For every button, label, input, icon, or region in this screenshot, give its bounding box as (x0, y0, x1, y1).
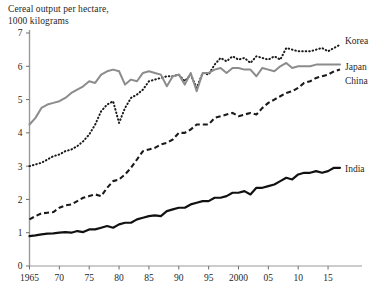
x-axis-tick-label: 75 (84, 273, 94, 283)
x-axis-tick-label: 1965 (20, 273, 39, 283)
y-axis-tick-label: 7 (18, 28, 23, 38)
series-line-china (30, 70, 341, 220)
cereal-output-chart: Cereal output per hectare, 1000 kilogram… (0, 0, 382, 294)
series-label-korea: Korea (345, 36, 369, 46)
x-axis-tick-label: 05 (264, 273, 274, 283)
x-axis-tick-label: 70 (55, 273, 65, 283)
series-line-japan (30, 63, 341, 125)
series-label-japan: Japan (345, 62, 367, 72)
y-axis-tick-label: 4 (18, 128, 23, 138)
x-axis-tick-label: 10 (293, 273, 303, 283)
x-axis-tick-label: 85 (144, 273, 154, 283)
y-axis-tick-label: 1 (18, 228, 23, 238)
chart-plot-area: 0123456719657075808590952000051015KoreaJ… (0, 0, 382, 294)
y-axis-tick-label: 5 (18, 95, 23, 105)
series-label-india: India (345, 164, 365, 174)
x-axis-tick-label: 90 (174, 273, 184, 283)
y-axis-tick-label: 3 (18, 162, 23, 172)
series-line-korea (30, 45, 341, 166)
y-axis-tick-label: 0 (18, 261, 23, 271)
x-axis-tick-label: 95 (204, 273, 214, 283)
x-axis-tick-label: 80 (114, 273, 124, 283)
x-axis-tick-label: 15 (323, 273, 333, 283)
y-axis-tick-label: 6 (18, 62, 23, 72)
y-axis-tick-label: 2 (18, 195, 23, 205)
x-axis-tick-label: 2000 (229, 273, 248, 283)
series-label-china: China (345, 76, 368, 86)
